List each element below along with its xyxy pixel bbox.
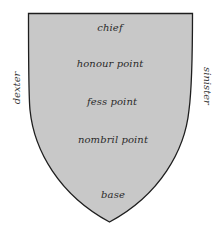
label-honour-point: honour point <box>77 58 144 69</box>
label-sinister: sinister <box>202 67 213 105</box>
label-base: base <box>101 189 125 200</box>
label-fess-point: fess point <box>87 96 137 107</box>
label-dexter: dexter <box>11 72 22 105</box>
shield-shape <box>0 0 223 237</box>
label-chief: chief <box>97 22 122 33</box>
shield-diagram: chief honour point fess point nombril po… <box>0 0 223 237</box>
label-nombril-point: nombril point <box>78 134 148 145</box>
